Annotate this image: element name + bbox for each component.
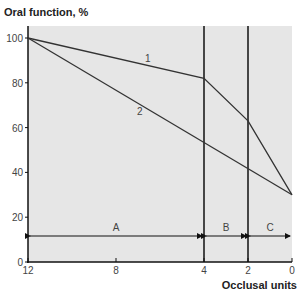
x-tick-label: 8 xyxy=(113,265,119,276)
region-label: B xyxy=(223,222,230,233)
y-tick-label: 80 xyxy=(12,78,24,89)
y-tick-label: 60 xyxy=(12,123,24,134)
series-label-2: 2 xyxy=(137,106,143,117)
region-label: A xyxy=(113,222,120,233)
x-tick-label: 2 xyxy=(245,265,251,276)
y-tick-label: 20 xyxy=(12,212,24,223)
y-tick-label: 40 xyxy=(12,167,24,178)
x-tick-label: 4 xyxy=(201,265,207,276)
chart: 02040608010012842012ABC xyxy=(0,0,303,295)
x-tick-label: 0 xyxy=(289,265,295,276)
region-label: C xyxy=(266,222,273,233)
y-tick-label: 100 xyxy=(6,33,23,44)
x-tick-label: 12 xyxy=(22,265,34,276)
series-label-1: 1 xyxy=(145,53,151,64)
